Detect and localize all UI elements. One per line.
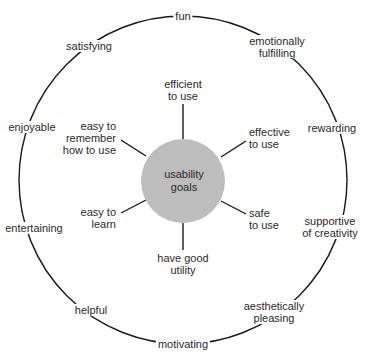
goal-remember-line3: how to use xyxy=(63,144,116,156)
ux-rewarding-line1: rewarding xyxy=(308,122,356,134)
ux-enjoyable-line1: enjoyable xyxy=(8,121,55,133)
goal-effective-line2: to use xyxy=(249,138,290,150)
goal-utility: have good utility xyxy=(155,252,210,276)
center-line2: goals xyxy=(164,181,204,194)
ux-supportive-of-creativity: supportive of creativity xyxy=(300,215,360,239)
goal-effective-line1: effective xyxy=(249,126,290,138)
ux-aesthetically-pleasing: aesthetically pleasing xyxy=(242,300,307,324)
goal-learn-line1: easy to xyxy=(81,206,116,218)
goal-efficient-line2: to use xyxy=(164,90,202,102)
ux-enjoyable: enjoyable xyxy=(6,121,57,133)
ux-aesthetically-line1: aesthetically xyxy=(244,300,305,312)
goal-safe-line1: safe xyxy=(249,207,279,219)
ux-helpful: helpful xyxy=(73,304,109,316)
spoke-safe xyxy=(221,201,246,214)
goal-safe-line2: to use xyxy=(249,219,279,231)
spoke-learn xyxy=(121,200,146,213)
goal-efficient: efficient to use xyxy=(162,78,204,102)
ux-aesthetically-line2: pleasing xyxy=(244,312,305,324)
ux-entertaining: entertaining xyxy=(3,222,65,234)
goal-learn: easy to learn xyxy=(79,206,118,230)
ux-entertaining-line1: entertaining xyxy=(5,222,63,234)
ux-fun: fun xyxy=(173,10,192,22)
ux-emotionally-fulfilling: emotionally fulfilling xyxy=(247,35,307,59)
goal-efficient-line1: efficient xyxy=(164,78,202,90)
center-line1: usability xyxy=(164,168,204,181)
ux-motivating: motivating xyxy=(156,338,210,350)
goal-utility-line1: have good xyxy=(157,252,208,264)
ux-supportive-line2: of creativity xyxy=(302,227,358,239)
center-label: usability goals xyxy=(164,168,204,194)
goal-learn-line2: learn xyxy=(81,218,116,230)
goal-remember-line2: remember xyxy=(63,132,116,144)
goal-effective: effective to use xyxy=(247,126,292,150)
goal-safe: safe to use xyxy=(247,207,281,231)
goal-remember-line1: easy to xyxy=(63,120,116,132)
ux-satisfying-line1: satisfying xyxy=(66,40,112,52)
goal-remember: easy to remember how to use xyxy=(61,120,118,156)
spoke-effective xyxy=(221,141,246,157)
ux-motivating-line1: motivating xyxy=(158,338,208,350)
ux-fun-line1: fun xyxy=(175,10,190,22)
ux-supportive-line1: supportive xyxy=(302,215,358,227)
goal-utility-line2: utility xyxy=(157,264,208,276)
spoke-remember xyxy=(121,140,146,156)
ux-satisfying: satisfying xyxy=(64,40,114,52)
ux-emotionally-line1: emotionally xyxy=(249,35,305,47)
ux-rewarding: rewarding xyxy=(306,122,358,134)
ux-emotionally-line2: fulfilling xyxy=(249,47,305,59)
ux-helpful-line1: helpful xyxy=(75,304,107,316)
